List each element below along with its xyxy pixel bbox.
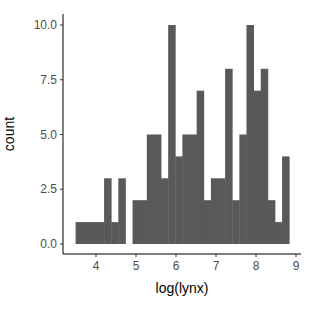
- histogram-bar: [218, 178, 226, 244]
- histogram-bar: [239, 135, 247, 245]
- y-tick-label: 10.0: [34, 18, 58, 32]
- histogram-bar: [268, 200, 276, 244]
- x-tick-label: 8: [253, 259, 260, 273]
- x-axis-title: log(lynx): [156, 280, 209, 296]
- x-tick-label: 6: [173, 259, 180, 273]
- histogram-bar: [76, 222, 84, 244]
- histogram-bar: [282, 156, 290, 244]
- histogram-bar: [254, 91, 262, 244]
- histogram-bar: [261, 69, 269, 244]
- histogram-bar: [118, 178, 126, 244]
- histogram-bar: [111, 222, 119, 244]
- y-axis-title: count: [1, 117, 17, 151]
- histogram-bar: [154, 135, 162, 245]
- histogram-bar: [147, 135, 155, 245]
- x-tick-label: 9: [293, 259, 300, 273]
- x-tick-label: 5: [133, 259, 140, 273]
- histogram-bar: [97, 222, 105, 244]
- histogram-bar: [211, 178, 219, 244]
- histogram-bar: [204, 200, 212, 244]
- histogram-bar: [232, 200, 240, 244]
- histogram-bar: [182, 135, 190, 245]
- histogram-bars: [76, 25, 290, 244]
- histogram-bar: [140, 200, 148, 244]
- histogram-bar: [161, 178, 169, 244]
- histogram-bar: [190, 135, 198, 245]
- histogram-bar: [133, 200, 141, 244]
- histogram-chart: 0.02.55.07.510.0 456789 log(lynx) count: [0, 0, 313, 309]
- x-tick-label: 7: [213, 259, 220, 273]
- histogram-bar: [83, 222, 91, 244]
- x-tick-label: 4: [93, 259, 100, 273]
- y-tick-label: 0.0: [40, 237, 57, 251]
- histogram-bar: [175, 156, 183, 244]
- histogram-bar: [197, 91, 205, 244]
- histogram-bar: [90, 222, 98, 244]
- y-tick-label: 5.0: [40, 128, 57, 142]
- y-tick-label: 2.5: [40, 182, 57, 196]
- y-axis-ticks: 0.02.55.07.510.0: [34, 18, 63, 251]
- histogram-bar: [168, 25, 176, 244]
- histogram-bar: [104, 178, 112, 244]
- x-axis-ticks: 456789: [93, 254, 300, 273]
- y-tick-label: 7.5: [40, 73, 57, 87]
- histogram-bar: [275, 222, 283, 244]
- histogram-bar: [225, 69, 233, 244]
- histogram-bar: [246, 25, 254, 244]
